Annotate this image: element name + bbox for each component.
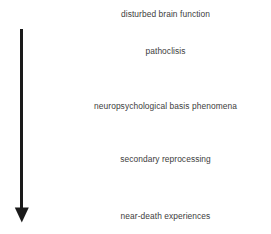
stage-label-text: pathoclisis (146, 46, 186, 56)
stage-label-near-death-experiences: near-death experiences (0, 211, 271, 221)
downward-progression-arrow (0, 0, 271, 234)
stage-label-secondary-reprocessing: secondary reprocessing (0, 154, 271, 164)
stage-label-neuropsychological-basis-phenomena: neuropsychological basis phenomena (0, 101, 271, 111)
stage-label-pathoclisis: pathoclisis (0, 46, 271, 56)
stage-label-text: near-death experiences (121, 211, 211, 221)
stage-label-text: neuropsychological basis phenomena (94, 101, 237, 111)
stage-label-text: secondary reprocessing (120, 154, 211, 164)
stage-label-disturbed-brain-function: disturbed brain function (0, 9, 271, 19)
stage-label-text: disturbed brain function (121, 9, 210, 19)
figure-canvas: disturbed brain function pathoclisis neu… (0, 0, 271, 234)
